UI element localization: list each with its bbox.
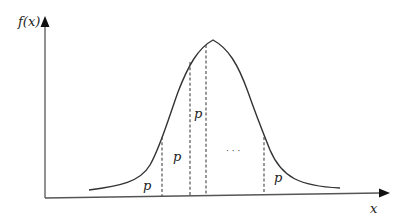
bell-curve [89,40,340,190]
y-axis-label: f(x) [17,14,40,29]
y-axis-arrow-icon [41,16,50,27]
x-axis-arrow-icon [379,189,390,198]
region-label: p [274,170,283,185]
x-axis-label: x [370,201,378,216]
x-axis [45,193,380,198]
ellipsis: · · · [226,146,240,156]
region-label: p [143,178,152,193]
region-label: p [194,106,203,121]
normal-curve-diagram: f(x) x p p p p · · · [0,0,406,223]
region-label: p [173,149,182,164]
